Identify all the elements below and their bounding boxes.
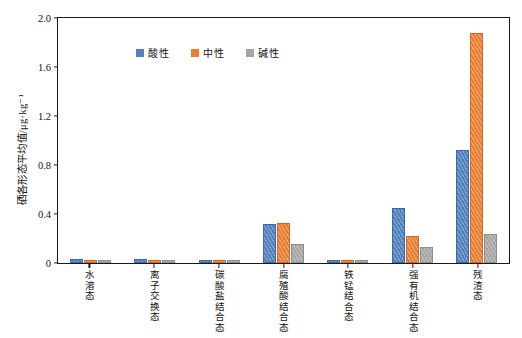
bar-group [122, 18, 186, 263]
bar-group [445, 18, 509, 263]
x-tick [251, 264, 316, 268]
y-tick-label: 1.6 [38, 62, 51, 73]
x-tick-mark [89, 264, 90, 268]
x-label-cell: 水溶态 [57, 270, 122, 338]
x-axis-label: 碳酸盐结合态 [213, 270, 224, 334]
bar-neutral[interactable] [277, 223, 290, 263]
bar-alkaline[interactable] [291, 244, 304, 263]
bar-alkaline[interactable] [227, 260, 240, 263]
plot-area: 酸性 中性 碱性 00.40.81.21.62.0 [57, 17, 510, 264]
bar-alkaline[interactable] [420, 247, 433, 263]
bar-acid[interactable] [263, 224, 276, 263]
x-tick [316, 264, 381, 268]
y-axis-title: 硒各形态平均值/μg·kg⁻¹ [14, 50, 29, 250]
bar-alkaline[interactable] [98, 260, 111, 263]
x-tick-mark [348, 264, 349, 268]
bar-acid[interactable] [134, 259, 147, 263]
x-tick [122, 264, 187, 268]
y-tick-label: 0.8 [38, 160, 51, 171]
bar-acid[interactable] [456, 150, 469, 263]
y-tick-label: 0 [46, 258, 51, 269]
bar-acid[interactable] [327, 260, 340, 263]
x-label-cell: 残渣态 [445, 270, 510, 338]
x-axis-label: 离子交换态 [148, 270, 159, 323]
x-axis-label: 残渣态 [472, 270, 483, 302]
bar-alkaline[interactable] [162, 260, 175, 263]
bar-group [380, 18, 444, 263]
y-tick-label: 1.2 [38, 111, 51, 122]
x-label-cell: 离子交换态 [122, 270, 187, 338]
bar-acid[interactable] [199, 260, 212, 263]
x-axis-label: 腐殖酸结合态 [278, 270, 289, 334]
bar-acid[interactable] [392, 208, 405, 263]
bar-group [58, 18, 122, 263]
bar-neutral[interactable] [148, 260, 161, 263]
x-axis-label: 强有机结合态 [407, 270, 418, 334]
bar-neutral[interactable] [470, 33, 483, 263]
x-tick [186, 264, 251, 268]
bar-neutral[interactable] [341, 260, 354, 263]
bar-acid[interactable] [70, 259, 83, 263]
bar-group [251, 18, 315, 263]
y-tick-label: 2.0 [38, 13, 51, 24]
x-axis-label: 铁锰结合态 [343, 270, 354, 323]
bar-alkaline[interactable] [355, 260, 368, 263]
x-axis-label: 水溶态 [84, 270, 95, 302]
x-tick-mark [218, 264, 219, 268]
bar-group [316, 18, 380, 263]
x-tick [381, 264, 446, 268]
bar-neutral[interactable] [213, 260, 226, 263]
bar-groups [58, 18, 509, 263]
x-tick-mark [283, 264, 284, 268]
x-axis-ticks [57, 264, 510, 268]
x-tick-mark [412, 264, 413, 268]
selenium-speciation-bar-chart: 硒各形态平均值/μg·kg⁻¹ 酸性 中性 碱性 00.40.81.21.62.… [0, 0, 522, 338]
y-tick-label: 0.4 [38, 209, 51, 220]
x-label-cell: 强有机结合态 [381, 270, 446, 338]
bar-group [187, 18, 251, 263]
x-axis-labels: 水溶态离子交换态碳酸盐结合态腐殖酸结合态铁锰结合态强有机结合态残渣态 [57, 270, 510, 338]
x-label-cell: 铁锰结合态 [316, 270, 381, 338]
bar-neutral[interactable] [406, 236, 419, 263]
bar-neutral[interactable] [84, 260, 97, 263]
x-label-cell: 腐殖酸结合态 [251, 270, 316, 338]
bar-alkaline[interactable] [484, 234, 497, 263]
x-tick-mark [153, 264, 154, 268]
x-label-cell: 碳酸盐结合态 [186, 270, 251, 338]
x-tick [57, 264, 122, 268]
x-tick-mark [477, 264, 478, 268]
x-tick [445, 264, 510, 268]
